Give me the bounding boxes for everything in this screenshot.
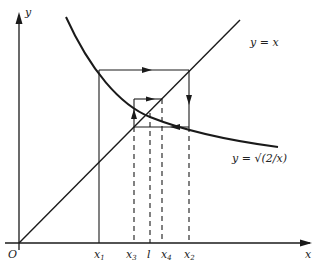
y-axis-arrow-icon <box>16 12 23 24</box>
arrow-down-icon <box>186 95 192 105</box>
line-label: y = x <box>249 36 279 49</box>
origin-label: O <box>8 248 17 261</box>
svg-text:x4: x4 <box>161 248 172 262</box>
svg-text:x1: x1 <box>94 248 105 262</box>
svg-text:x2: x2 <box>184 248 195 262</box>
cobweb-diagram: y x O y = x y = √(2/x) x1 x3 l x4 x2 <box>0 0 314 273</box>
curve-label: y = √(2/x) <box>231 152 287 165</box>
svg-text:x3: x3 <box>126 248 137 262</box>
arrow-right-small-icon <box>146 97 155 102</box>
x-axis-arrow-icon <box>300 240 312 247</box>
svg-text:l: l <box>147 248 151 261</box>
identity-line <box>19 20 240 243</box>
x-axis-label: x <box>305 248 312 261</box>
y-axis-label: y <box>24 6 32 19</box>
x-tick-labels: x1 x3 l x4 x2 <box>94 248 195 262</box>
arrow-right-icon <box>142 67 152 73</box>
